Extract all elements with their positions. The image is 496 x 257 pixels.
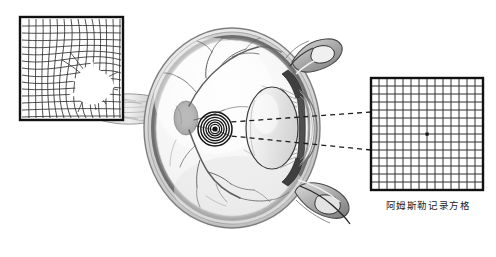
normal-amsler-grid xyxy=(371,78,483,190)
crystalline-lens xyxy=(246,87,298,169)
amsler-grid-caption: 阿姆斯勒记录方格 xyxy=(371,198,485,212)
eye-amsler-figure xyxy=(0,0,496,257)
macula-bullseye xyxy=(198,112,232,146)
lower-eyelid xyxy=(295,180,350,224)
distorted-amsler-grid xyxy=(20,17,123,120)
fixation-dot xyxy=(426,133,429,136)
optic-disc xyxy=(174,101,198,135)
figure-canvas xyxy=(0,0,496,257)
